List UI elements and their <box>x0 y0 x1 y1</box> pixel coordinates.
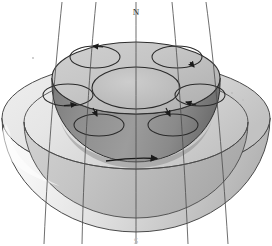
diagram-canvas: N S <box>0 0 272 246</box>
geodynamo-figure: N S <box>0 0 272 246</box>
pole-south-label: S <box>134 237 138 246</box>
pole-north-label: N <box>133 7 140 17</box>
